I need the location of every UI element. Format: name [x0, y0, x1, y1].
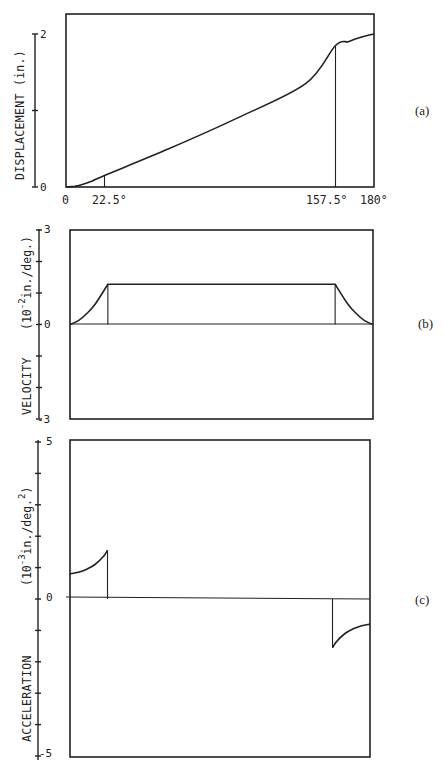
panel-acceleration: 5 0 -5 ACCELERATION (10-3in./deg.2) (c): [17, 435, 429, 760]
y-tick-label-min: -3: [37, 413, 50, 426]
velocity-curve: [70, 284, 373, 324]
svg-text:(10-3in./deg.2): (10-3in./deg.2): [17, 487, 34, 586]
x-tick-label-157-5: 157.5°: [306, 193, 348, 207]
y-tick-label-zero: 0: [44, 318, 51, 331]
y-axis-unit: (10-3in./deg.2): [17, 487, 34, 586]
y-axis-unit: (10-2in./deg.): [17, 236, 34, 330]
unit-mid: in./deg.: [20, 499, 34, 554]
y-tick-label-zero: 0: [40, 181, 47, 194]
cam-motion-charts: 2 0 DISPLACEMENT (in.) 0 22.5° 157.5° 18…: [0, 0, 446, 774]
panel-label-b: (b): [418, 316, 433, 331]
x-tick-label-22-5: 22.5°: [92, 193, 127, 207]
y-axis-name: ACCELERATION: [20, 655, 34, 742]
zero-line: [66, 597, 370, 599]
y-axis-name: VELOCITY: [20, 357, 34, 415]
acceleration-curve-rise: [70, 550, 108, 574]
unit-prefix: (10: [20, 309, 34, 330]
y-tick-label-max: 3: [44, 223, 51, 236]
acceleration-curve-fall: [333, 624, 371, 648]
unit-suffix: in./deg.): [20, 236, 34, 298]
panel-label-c: (c): [415, 592, 429, 607]
unit-exponent: -3: [17, 554, 27, 565]
x-tick-label-0: 0: [62, 193, 69, 207]
panel-label-a: (a): [415, 103, 429, 118]
x-tick-label-180: 180°: [360, 193, 388, 207]
panel-displacement: 2 0 DISPLACEMENT (in.) 0 22.5° 157.5° 18…: [13, 14, 429, 207]
unit-exponent: -2: [17, 298, 27, 309]
unit-suffix: ): [20, 487, 34, 494]
displacement-curve: [66, 34, 374, 187]
panel-velocity: 3 0 -3 VELOCITY (10-2in./deg.) (b): [17, 223, 433, 426]
y-tick-label-zero: 0: [46, 591, 53, 604]
y-axis-label: DISPLACEMENT (in.): [13, 50, 27, 180]
y-tick-label-max: 5: [46, 435, 53, 448]
svg-text:(10-2in./deg.): (10-2in./deg.): [17, 236, 34, 330]
y-tick-label-min: -5: [39, 747, 52, 760]
y-tick-label-max: 2: [40, 28, 47, 41]
unit-prefix: (10: [20, 565, 34, 586]
plot-frame: [66, 14, 374, 187]
